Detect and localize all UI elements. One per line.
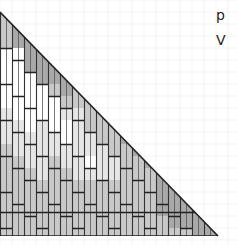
brick-cell — [36, 228, 48, 240]
brick-cell — [12, 96, 24, 108]
brick-cell — [180, 228, 192, 240]
brick-cell — [24, 60, 36, 72]
brick-cell — [132, 180, 144, 192]
brick-cell — [192, 156, 204, 168]
brick-cell — [144, 36, 156, 48]
brick-cell — [36, 36, 48, 48]
brick-cell — [180, 84, 192, 96]
brick-cell — [204, 48, 216, 60]
brick-cell — [96, 180, 108, 192]
brick-cell — [60, 108, 72, 120]
brick-cell — [120, 48, 132, 60]
brick-cell — [12, 168, 24, 180]
brick-cell — [96, 168, 108, 180]
brick-cell — [120, 204, 132, 216]
brick-cell — [72, 132, 84, 144]
brick-cell — [156, 96, 168, 108]
brick-cell — [84, 156, 96, 168]
brick-cell — [72, 36, 84, 48]
brick-cell — [156, 216, 168, 228]
brick-cell — [144, 48, 156, 60]
brick-cell — [120, 180, 132, 192]
brick-cell — [60, 144, 72, 156]
brick-cell — [48, 120, 60, 132]
brick-cell — [168, 12, 180, 24]
brick-cell — [156, 144, 168, 156]
brick-cell — [180, 12, 192, 24]
brick-cell — [72, 84, 84, 96]
brick-cell — [144, 108, 156, 120]
brick-cell — [0, 36, 12, 48]
brick-cell — [168, 144, 180, 156]
brick-cell — [96, 48, 108, 60]
brick-cell — [36, 24, 48, 36]
brick-cell — [192, 48, 204, 60]
brick-cell — [36, 168, 48, 180]
brick-cell — [96, 108, 108, 120]
brick-cell — [48, 60, 60, 72]
brick-cell — [12, 216, 24, 228]
brick-cell — [132, 36, 144, 48]
brick-cell — [108, 156, 120, 168]
brick-cell — [180, 36, 192, 48]
brick-cell — [0, 72, 12, 84]
brick-cell — [180, 156, 192, 168]
brick-cell — [24, 216, 36, 228]
brick-cell — [84, 12, 96, 24]
brick-cell — [108, 108, 120, 120]
brick-cell — [48, 228, 60, 240]
brick-cell — [144, 72, 156, 84]
brick-cell — [108, 48, 120, 60]
brick-cell — [180, 72, 192, 84]
brick-cell — [192, 180, 204, 192]
brick-cell — [36, 108, 48, 120]
side-label-p: p — [216, 8, 225, 22]
brick-cell — [144, 120, 156, 132]
brick-cell — [72, 180, 84, 192]
brick-cell — [72, 228, 84, 240]
brick-cell — [132, 60, 144, 72]
brick-cell — [72, 60, 84, 72]
brick-cell — [0, 84, 12, 96]
brick-cell — [204, 228, 216, 240]
brick-cell — [192, 228, 204, 240]
brick-cell — [12, 132, 24, 144]
brick-cell — [60, 120, 72, 132]
brick-cell — [168, 84, 180, 96]
brick-cell — [84, 84, 96, 96]
brick-cell — [168, 96, 180, 108]
brick-cell — [48, 216, 60, 228]
brick-cell — [12, 108, 24, 120]
brick-cell — [12, 36, 24, 48]
brick-cell — [36, 180, 48, 192]
brick-cell — [96, 132, 108, 144]
brick-cell — [72, 24, 84, 36]
brick-cell — [36, 156, 48, 168]
brick-cell — [192, 84, 204, 96]
brick-cell — [132, 48, 144, 60]
brick-cell — [132, 12, 144, 24]
brick-cell — [60, 132, 72, 144]
brick-cell — [108, 36, 120, 48]
side-label-v: V — [216, 33, 226, 47]
brick-cell — [180, 24, 192, 36]
brick-cell — [36, 96, 48, 108]
brick-cell — [48, 12, 60, 24]
brick-cell — [132, 132, 144, 144]
brick-cell — [108, 180, 120, 192]
brick-cell — [168, 156, 180, 168]
brick-cell — [24, 96, 36, 108]
brick-cell — [12, 48, 24, 60]
brick-cell — [120, 216, 132, 228]
brick-cell — [12, 204, 24, 216]
brick-cell — [168, 108, 180, 120]
brick-cell — [144, 228, 156, 240]
brick-cell — [96, 96, 108, 108]
brick-cell — [168, 72, 180, 84]
brick-cell — [84, 120, 96, 132]
brick-cell — [84, 216, 96, 228]
brick-cell — [24, 144, 36, 156]
brick-cell — [144, 84, 156, 96]
brick-cell — [156, 48, 168, 60]
brick-cell — [132, 216, 144, 228]
